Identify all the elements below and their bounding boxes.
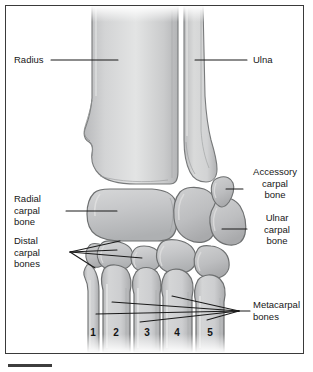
metacarpal-number-1: 1: [87, 327, 99, 338]
metacarpal-number-4: 4: [171, 327, 183, 338]
label-ulna: Ulna: [253, 54, 273, 66]
label-metacarpal-bones: Metacarpal bones: [253, 299, 300, 322]
label-radial-carpal-bone: Radial carpal bone: [14, 193, 41, 228]
radial-carpal-bone: [87, 189, 177, 241]
caption-rule: [8, 364, 52, 367]
metacarpal-number-3: 3: [141, 327, 153, 338]
metacarpal-number-5: 5: [204, 327, 216, 338]
distal-carpal-bone-5: [194, 246, 229, 279]
radius-bone: [84, 6, 178, 184]
figure-root: Radius Ulna Accessory carpal bone Ulnar …: [0, 0, 313, 372]
ulnar-carpal-bone: [210, 198, 246, 245]
label-radius: Radius: [14, 54, 44, 66]
label-accessory-carpal-bone: Accessory carpal bone: [246, 166, 304, 201]
distal-carpal-bone-4: [157, 240, 197, 274]
label-distal-carpal-bones: Distal carpal bones: [14, 235, 40, 270]
label-ulnar-carpal-bone: Ulnar carpal bone: [250, 212, 304, 247]
metacarpal-number-2: 2: [110, 327, 122, 338]
ulna-bone: [184, 6, 217, 182]
